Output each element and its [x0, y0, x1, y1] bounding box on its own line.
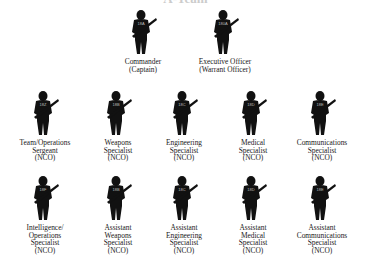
team-member: 18F Intelligence/OperationsSpecialist(NC…: [5, 176, 85, 254]
soldier-icon: 18Z: [30, 91, 60, 137]
chart-title: A-Team: [0, 0, 371, 7]
mos-badge: 18F: [35, 187, 51, 192]
mos-badge: 18D: [243, 187, 259, 192]
label-line: (NCO): [144, 247, 224, 255]
team-member: 18A Commander(Captain): [103, 10, 183, 73]
mos-badge: 18C: [174, 187, 190, 192]
soldier-icon: 18D: [238, 176, 268, 222]
mos-badge: 18E: [312, 187, 328, 192]
member-label: CommunicationsSpecialist(NCO): [282, 139, 362, 162]
label-line: (Warrant Officer): [185, 66, 265, 74]
label-line: (Captain): [103, 66, 183, 74]
label-line: (NCO): [282, 154, 362, 162]
mos-badge: 18E: [312, 102, 328, 107]
member-label: Intelligence/OperationsSpecialist(NCO): [5, 224, 85, 254]
mos-badge: 18B: [108, 187, 124, 192]
mos-badge: 180A: [215, 21, 231, 26]
team-member: 18D MedicalSpecialist(NCO): [213, 91, 293, 162]
label-line: (NCO): [282, 247, 362, 255]
member-label: AssistantMedicalSpecialist(NCO): [213, 224, 293, 254]
soldier-icon: 18B: [103, 176, 133, 222]
member-label: Commander(Captain): [103, 58, 183, 73]
mos-badge: 18D: [243, 102, 259, 107]
team-member: 18Z Team/OperationsSergeant(NCO): [5, 91, 85, 162]
mos-badge: 18C: [174, 102, 190, 107]
team-member: 18E CommunicationsSpecialist(NCO): [282, 91, 362, 162]
member-label: MedicalSpecialist(NCO): [213, 139, 293, 162]
label-line: (NCO): [5, 247, 85, 255]
member-label: AssistantEngineeringSpecialist(NCO): [144, 224, 224, 254]
soldier-icon: 180A: [210, 10, 240, 56]
soldier-icon: 18A: [128, 10, 158, 56]
soldier-icon: 18D: [238, 91, 268, 137]
member-label: EngineeringSpecialist(NCO): [144, 139, 224, 162]
label-line: (NCO): [213, 154, 293, 162]
soldier-icon: 18E: [307, 176, 337, 222]
team-member: 18C EngineeringSpecialist(NCO): [144, 91, 224, 162]
label-line: (NCO): [213, 247, 293, 255]
mos-badge: 18A: [133, 21, 149, 26]
label-line: (NCO): [144, 154, 224, 162]
soldier-icon: 18C: [169, 91, 199, 137]
soldier-icon: 18F: [30, 176, 60, 222]
team-member: 18D AssistantMedicalSpecialist(NCO): [213, 176, 293, 254]
mos-badge: 18B: [108, 102, 124, 107]
team-member: 180A Executive Officer(Warrant Officer): [185, 10, 265, 73]
member-label: Team/OperationsSergeant(NCO): [5, 139, 85, 162]
team-member: 18E AssistantCommunicationsSpecialist(NC…: [282, 176, 362, 254]
member-label: Executive Officer(Warrant Officer): [185, 58, 265, 73]
soldier-icon: 18C: [169, 176, 199, 222]
soldier-icon: 18B: [103, 91, 133, 137]
mos-badge: 18Z: [35, 102, 51, 107]
soldier-icon: 18E: [307, 91, 337, 137]
team-member: 18C AssistantEngineeringSpecialist(NCO): [144, 176, 224, 254]
member-label: AssistantCommunicationsSpecialist(NCO): [282, 224, 362, 254]
label-line: (NCO): [5, 154, 85, 162]
